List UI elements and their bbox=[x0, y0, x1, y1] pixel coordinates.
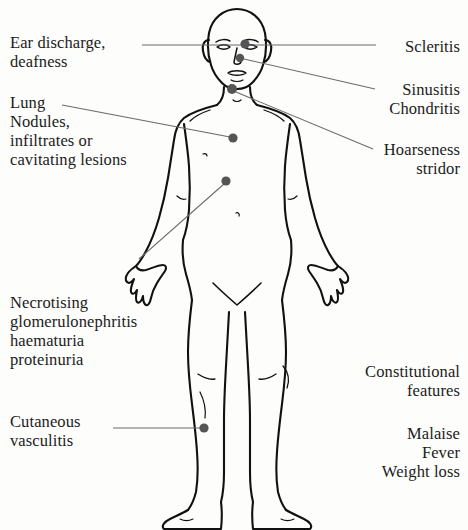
sternal-notch bbox=[233, 100, 241, 102]
right-foot-outline bbox=[252, 502, 311, 529]
label-systemic-symptoms: Malaise Fever Weight loss bbox=[382, 424, 460, 481]
groin-outline bbox=[213, 283, 261, 305]
left-foot-outline bbox=[163, 502, 222, 529]
leader-renal bbox=[139, 184, 224, 259]
label-renal: Necrotising glomerulonephritis haematuri… bbox=[10, 293, 137, 369]
hip-left-outline bbox=[183, 240, 192, 300]
marker-kidney bbox=[221, 176, 230, 185]
vasculitis-body-diagram: Ear discharge, deafness Lung Nodules, in… bbox=[0, 0, 468, 530]
label-scleritis: Scleritis bbox=[405, 37, 460, 56]
marker-dots-group bbox=[199, 39, 249, 432]
left-foot-toe-detail bbox=[180, 519, 193, 521]
marker-larynx bbox=[227, 84, 237, 94]
right-elbow-crease bbox=[288, 196, 297, 199]
clavicle-right bbox=[264, 110, 284, 121]
mouth-outline bbox=[228, 71, 246, 76]
left-elbow-crease bbox=[177, 196, 186, 199]
label-ear-discharge: Ear discharge, deafness bbox=[10, 33, 105, 71]
label-constitutional-features: Constitutional features bbox=[365, 362, 460, 400]
clavicle-left bbox=[190, 110, 210, 121]
marker-ear-eye bbox=[240, 39, 249, 48]
leg-left-outer-outline bbox=[188, 300, 198, 510]
leg-left-inner-outline bbox=[221, 312, 229, 502]
chin-crease bbox=[231, 80, 243, 82]
leg-right-inner-outline bbox=[245, 312, 253, 502]
marker-skin-leg bbox=[199, 423, 208, 432]
navel bbox=[236, 213, 239, 216]
label-hoarseness-stridor: Hoarseness stridor bbox=[384, 140, 460, 178]
leg-right-outer-outline bbox=[276, 300, 286, 510]
hand-right-outline bbox=[308, 265, 348, 305]
neck-left-outline bbox=[217, 87, 224, 105]
label-lung: Lung Nodules, infiltrates or cavitating … bbox=[10, 93, 127, 169]
hip-right-outline bbox=[282, 240, 291, 300]
marker-lung bbox=[228, 133, 237, 142]
leader-sinus bbox=[244, 59, 375, 89]
leader-hoarseness bbox=[236, 92, 373, 149]
body-outline-group bbox=[126, 9, 348, 529]
label-sinusitis-chondritis: Sinusitis Chondritis bbox=[389, 80, 460, 118]
torso-left-outline bbox=[136, 105, 217, 266]
right-knee-crease bbox=[259, 374, 276, 379]
neck-right-outline bbox=[250, 87, 257, 105]
arm-left-inner-outline bbox=[183, 124, 190, 240]
left-shin-detail bbox=[200, 392, 205, 418]
left-eyebrow bbox=[216, 40, 230, 42]
marker-sinus bbox=[236, 54, 244, 62]
left-nipple bbox=[203, 154, 207, 156]
arm-right-inner-outline bbox=[284, 124, 291, 240]
label-cutaneous-vasculitis: Cutaneous vasculitis bbox=[10, 412, 81, 450]
left-knee-crease bbox=[198, 374, 215, 379]
right-foot-toe-detail bbox=[281, 519, 294, 521]
